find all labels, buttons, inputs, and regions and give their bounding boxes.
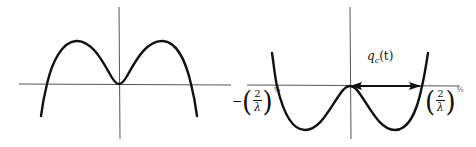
right-plot (247, 7, 460, 139)
diagram-canvas (0, 0, 476, 147)
trajectory-label: qc(t) (367, 49, 393, 65)
left-y-axis (119, 7, 120, 139)
trajectory-double-arrow (350, 82, 421, 90)
positive-turning-point-label: ( 2λ ) ½ (425, 88, 463, 114)
left-x-axis (19, 84, 231, 85)
right-y-axis (350, 7, 351, 139)
negative-turning-point-label: − ( 2λ ) ½ (232, 88, 281, 114)
left-plot (19, 7, 231, 139)
